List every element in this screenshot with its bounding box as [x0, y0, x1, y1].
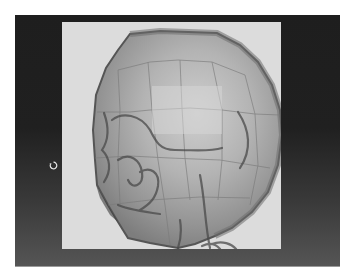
viewport-canvas[interactable]	[62, 22, 281, 249]
head-model	[62, 22, 281, 249]
rotate-icon	[49, 161, 58, 170]
